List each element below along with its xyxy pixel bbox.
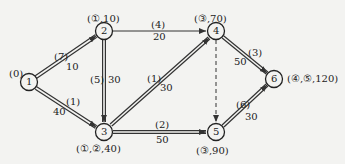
node-2-mark: (①,10) bbox=[87, 14, 120, 24]
node-3-label: 3 bbox=[101, 127, 107, 137]
edge-1-2-weight: 10 bbox=[66, 62, 79, 72]
edge-4-6-order: (3) bbox=[248, 48, 262, 58]
node-4-mark: (③,70) bbox=[194, 14, 227, 24]
edge-2-3-order: (5) bbox=[90, 75, 104, 85]
node-6-mark: (④,⑤,120) bbox=[287, 74, 338, 84]
edge-4-6-weight: 50 bbox=[234, 57, 247, 67]
edge-2-4-order: (4) bbox=[151, 20, 165, 30]
edge-3-4-weight: 30 bbox=[160, 83, 173, 93]
node-6-label: 6 bbox=[271, 74, 277, 84]
edge-2-3-weight: 30 bbox=[108, 75, 121, 85]
edge-3-5-weight: 50 bbox=[156, 135, 169, 145]
edge-5-6-weight: 30 bbox=[245, 112, 258, 122]
node-5-label: 5 bbox=[213, 127, 219, 137]
edge-3-5-order: (2) bbox=[155, 120, 169, 130]
node-5-mark: (③,90) bbox=[196, 146, 229, 156]
edge-5-6-order: (6) bbox=[236, 100, 250, 110]
node-1-mark: (0) bbox=[9, 69, 23, 79]
edge-1-3 bbox=[36, 88, 96, 127]
edge-2-4-weight: 20 bbox=[153, 32, 166, 42]
node-3-mark: (①,②,40) bbox=[76, 144, 121, 154]
node-4-label: 4 bbox=[213, 26, 219, 36]
node-2-label: 2 bbox=[101, 26, 107, 36]
edge-1-3-order: (1) bbox=[66, 97, 80, 107]
node-1-label: 1 bbox=[26, 77, 32, 87]
edge-1-3-weight: 40 bbox=[53, 107, 66, 117]
